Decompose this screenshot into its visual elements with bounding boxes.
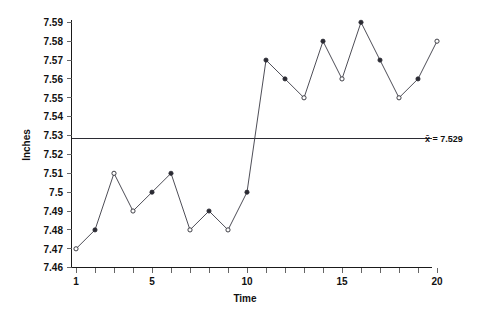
x-axis-title: Time: [233, 293, 257, 304]
x-tick-label: 20: [431, 276, 443, 287]
y-axis-title: Inches: [21, 129, 32, 161]
data-point: [397, 96, 401, 100]
y-tick-label: 7.58: [44, 36, 64, 47]
data-point: [264, 58, 268, 62]
data-point: [245, 190, 249, 194]
data-point: [359, 20, 363, 24]
data-point: [435, 39, 439, 43]
data-point: [150, 190, 154, 194]
chart-figure: 7.59 7.58 7.57 7.56 7.55 7.54 7.53 7.52 …: [0, 0, 484, 321]
data-point: [207, 209, 211, 213]
y-tick-label: 7.59: [44, 17, 64, 28]
control-chart-svg: 7.59 7.58 7.57 7.56 7.55 7.54 7.53 7.52 …: [0, 0, 484, 321]
y-tick-label: 7.57: [44, 55, 64, 66]
data-point: [93, 228, 97, 232]
y-tick-label: 7.49: [44, 206, 64, 217]
y-tick-label: 7.55: [44, 93, 64, 104]
data-point: [321, 39, 325, 43]
data-point: [169, 171, 173, 175]
x-tick-label: 5: [149, 276, 155, 287]
data-point: [283, 77, 287, 81]
y-tick-label: 7.48: [44, 225, 64, 236]
data-point: [302, 96, 306, 100]
data-point: [340, 77, 344, 81]
chart-background: [0, 0, 484, 321]
y-tick-label: 7.46: [44, 262, 64, 273]
x-tick-label: 10: [241, 276, 253, 287]
y-tick-label: 7.47: [44, 244, 64, 255]
data-point: [378, 58, 382, 62]
data-point: [416, 77, 420, 81]
data-point: [112, 171, 116, 175]
data-point: [226, 228, 230, 232]
data-point: [131, 209, 135, 213]
y-tick-label: 7.54: [44, 111, 64, 122]
x-tick-label: 15: [336, 276, 348, 287]
mean-annotation-label: x̄ = 7.529: [425, 134, 463, 144]
data-point: [188, 228, 192, 232]
y-tick-label: 7.51: [44, 168, 64, 179]
y-tick-label: 7.53: [44, 130, 64, 141]
y-tick-label: 7.5: [49, 187, 63, 198]
data-point: [74, 247, 78, 251]
y-tick-label: 7.56: [44, 74, 64, 85]
x-tick-label: 1: [73, 276, 79, 287]
y-tick-label: 7.52: [44, 149, 64, 160]
